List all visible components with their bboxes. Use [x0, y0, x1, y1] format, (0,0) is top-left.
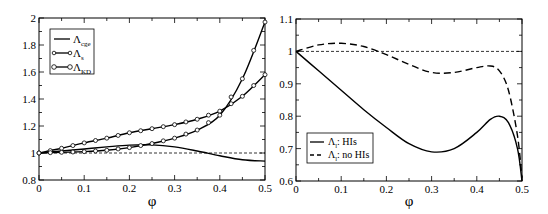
- y-tick-label: 1: [288, 45, 294, 57]
- data-point-marker: [240, 94, 244, 98]
- y-tick-label: 1.2: [22, 120, 36, 132]
- data-point-marker: [82, 150, 86, 154]
- y-tick-label: 1.1: [279, 13, 293, 25]
- data-point-marker: [229, 95, 233, 99]
- y-tick-label: 0.9: [279, 78, 293, 90]
- data-point-marker: [218, 113, 222, 117]
- x-tick-label: 0.2: [380, 183, 394, 195]
- data-point-marker: [150, 127, 154, 131]
- x-tick-label: 0.5: [515, 183, 529, 195]
- data-point-marker: [94, 139, 98, 143]
- left-x-axis-label: φ: [148, 193, 157, 209]
- data-point-marker: [184, 120, 188, 124]
- y-tick-label: 0.7: [279, 143, 293, 155]
- x-tick-label: 0.5: [258, 182, 272, 194]
- legend-marker-icon: [52, 65, 57, 70]
- data-point-marker: [195, 128, 199, 132]
- figure: 00.10.20.30.40.5 0.811.21.41.61.82 φ Λcg…: [0, 0, 548, 214]
- y-tick-label: 1.6: [22, 66, 36, 78]
- right-x-ticks: 00.10.20.30.40.5: [293, 19, 529, 195]
- y-tick-label: 0.6: [279, 175, 293, 187]
- data-point-marker: [207, 113, 211, 117]
- data-point-marker: [263, 73, 267, 77]
- data-point-marker: [173, 123, 177, 127]
- right-chart: 00.10.20.30.40.5 0.60.70.80.911.1 φ Λl: …: [279, 13, 529, 209]
- x-tick-label: 0.4: [470, 183, 484, 195]
- x-tick-label: 0.4: [213, 182, 227, 194]
- data-point-marker: [116, 133, 120, 137]
- data-point-marker: [195, 117, 199, 121]
- legend-marker-icon: [68, 65, 73, 70]
- data-point-marker: [173, 136, 177, 140]
- data-point-marker: [71, 150, 75, 154]
- data-point-marker: [184, 132, 188, 136]
- y-tick-label: 0.8: [22, 174, 36, 186]
- x-tick-label: 0.3: [168, 182, 182, 194]
- y-tick-label: 2: [31, 12, 37, 24]
- right-x-axis-label: φ: [405, 193, 414, 209]
- data-point-marker: [207, 121, 211, 125]
- data-point-marker: [161, 125, 165, 129]
- y-tick-label: 1.8: [22, 39, 36, 51]
- legend-marker-icon: [52, 51, 56, 55]
- x-tick-label: 0.2: [123, 182, 137, 194]
- data-point-marker: [252, 84, 256, 88]
- x-tick-label: 0.1: [334, 183, 348, 195]
- data-point-marker: [37, 151, 41, 155]
- data-point-marker: [105, 136, 109, 140]
- x-tick-label: 0.1: [77, 182, 91, 194]
- data-point-marker: [127, 131, 131, 135]
- data-point-marker: [150, 142, 154, 146]
- data-point-marker: [139, 144, 143, 148]
- data-point-marker: [139, 129, 143, 133]
- data-point-marker: [116, 147, 120, 151]
- y-tick-label: 1: [31, 147, 37, 159]
- y-tick-label: 0.8: [279, 110, 293, 122]
- left-legend: Λcge Λs ΛKD: [50, 29, 94, 76]
- data-point-marker: [60, 146, 64, 150]
- legend-marker-icon: [68, 51, 72, 55]
- x-tick-label: 0: [293, 183, 299, 195]
- left-chart: 00.10.20.30.40.5 0.811.21.41.61.82 φ Λcg…: [22, 12, 272, 209]
- data-point-marker: [48, 151, 52, 155]
- data-point-marker: [240, 77, 244, 81]
- right-legend: Λl: HIs Λl: no HIs: [307, 133, 373, 163]
- data-point-marker: [127, 146, 131, 150]
- data-point-marker: [263, 20, 267, 24]
- x-tick-label: 0: [36, 182, 42, 194]
- data-point-marker: [161, 139, 165, 143]
- data-point-marker: [60, 150, 64, 154]
- y-tick-label: 1.4: [22, 93, 36, 105]
- data-point-marker: [105, 148, 109, 152]
- data-point-marker: [82, 141, 86, 145]
- data-point-marker: [252, 48, 256, 52]
- x-tick-label: 0.3: [425, 183, 439, 195]
- data-point-marker: [71, 144, 75, 148]
- data-point-marker: [94, 149, 98, 153]
